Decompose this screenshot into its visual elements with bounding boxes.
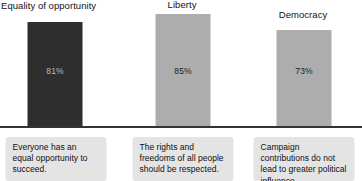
caption-text: Campaign contributions do not lead to gr… (261, 142, 348, 181)
category-title: Democracy (244, 9, 362, 21)
bar-liberty: 85% (156, 14, 211, 127)
category-title: Liberty (122, 0, 242, 11)
axis-baseline (0, 126, 362, 128)
caption-box: The rights and freedoms of all people sh… (133, 137, 234, 181)
caption-text: Everyone has an equal opportunity to suc… (13, 142, 100, 176)
chart-column-democracy: Democracy 73% Campaign contributions do … (244, 0, 362, 181)
bar-equality-of-opportunity: 81% (28, 22, 83, 127)
caption-box: Campaign contributions do not lead to gr… (254, 137, 355, 181)
bar-democracy: 73% (277, 30, 332, 127)
bar-value-label: 85% (156, 66, 211, 76)
caption-box: Everyone has an equal opportunity to suc… (6, 137, 107, 181)
chart-column-liberty: Liberty 85% The rights and freedoms of a… (122, 0, 242, 181)
caption-text: The rights and freedoms of all people sh… (140, 142, 227, 176)
bar-value-label: 81% (28, 66, 83, 76)
chart-column-equality-of-opportunity: Equality of opportunity 81% Everyone has… (0, 0, 120, 181)
bar-value-label: 73% (277, 66, 332, 76)
category-title: Equality of opportunity (1, 0, 96, 12)
bar-chart: Equality of opportunity 81% Everyone has… (0, 0, 362, 181)
